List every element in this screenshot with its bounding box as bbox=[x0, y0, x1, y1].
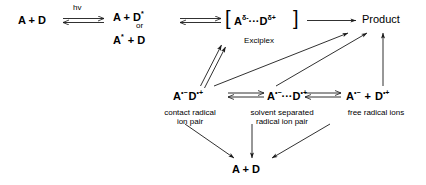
excited-acceptor-rest: + D bbox=[128, 34, 145, 46]
crip-label-line1: contact radical bbox=[164, 108, 216, 117]
species-bottom-ground-pair: A + D bbox=[232, 164, 260, 175]
species-product: Product bbox=[362, 14, 400, 25]
exciplex-dots: ··· bbox=[249, 15, 260, 27]
fri-plus: + bbox=[365, 90, 371, 102]
crip-d-charge: •+ bbox=[196, 89, 203, 96]
crip-label-line2: ion pair bbox=[177, 117, 203, 126]
species-solvent-separated-radical-ion-pair: A•−···D•+ bbox=[267, 89, 307, 102]
fri-a: A bbox=[346, 90, 354, 102]
crip-a-charge: •− bbox=[181, 89, 188, 96]
fri-d: D bbox=[375, 90, 383, 102]
crip-a: A bbox=[173, 90, 181, 102]
reaction-scheme-canvas: A + D hv A + D* or A*+ D [ Aδ-···Dδ+ ] E… bbox=[0, 0, 426, 185]
label-exciplex: Exciplex bbox=[228, 36, 290, 45]
exciplex-a: A bbox=[234, 15, 242, 27]
label-contact-radical-ion-pair: contact radicalion pair bbox=[160, 108, 220, 126]
species-contact-radical-ion-pair: A•−D•+ bbox=[173, 89, 203, 102]
bracket-left: [ bbox=[225, 8, 231, 28]
fri-d-charge: •+ bbox=[383, 89, 390, 96]
species-excited-acceptor: A*+ D bbox=[113, 33, 145, 46]
ssrip-label-line2: radical ion pair bbox=[256, 117, 308, 126]
fri-a-charge: •− bbox=[354, 89, 361, 96]
ssrip-label-line1: solvent separated bbox=[250, 108, 313, 117]
excited-acceptor-a: A bbox=[113, 34, 121, 46]
exciplex-a-charge: δ- bbox=[242, 14, 249, 21]
excited-acceptor-star: * bbox=[121, 33, 124, 40]
species-free-radical-ions: A•−+D•+ bbox=[346, 89, 389, 102]
label-hv: hv bbox=[73, 4, 81, 12]
label-solvent-separated-radical-ion-pair: solvent separatedradical ion pair bbox=[244, 108, 320, 126]
bracket-right: ] bbox=[293, 8, 299, 28]
ssrip-a: A bbox=[267, 90, 275, 102]
label-free-radical-ions: free radical ions bbox=[340, 108, 412, 117]
excited-donor-star: * bbox=[141, 10, 144, 17]
label-or: or bbox=[136, 22, 143, 30]
ssrip-dots: ··· bbox=[282, 90, 293, 102]
exciplex-d-charge: δ+ bbox=[267, 14, 275, 21]
ssrip-d-charge: •+ bbox=[300, 89, 307, 96]
species-exciplex: Aδ-···Dδ+ bbox=[234, 14, 276, 27]
species-ground-state-pair: A + D bbox=[18, 15, 46, 26]
